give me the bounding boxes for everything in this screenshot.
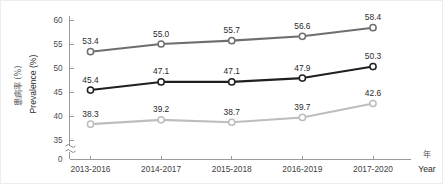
data-point-marker (370, 63, 376, 69)
x-tick-label: 2013-2016 (70, 164, 110, 174)
data-point-label: 38.3 (82, 109, 99, 119)
x-tick-label: 2016-2019 (282, 164, 322, 174)
x-axis-title-cjk: 年 (423, 149, 431, 159)
y-axis-title: Prevalence (%) (28, 54, 38, 113)
data-point-marker (299, 114, 305, 120)
data-point-label: 47.9 (294, 63, 311, 73)
data-point-label: 47.1 (153, 66, 170, 76)
y-tick-label: 40 (53, 112, 63, 121)
data-point-label: 47.1 (224, 66, 241, 76)
prevalence-line-chart: 35404550556002013-20162014-20172015-2018… (0, 0, 443, 184)
data-point-marker (229, 79, 235, 85)
data-point-label: 50.3 (365, 51, 382, 61)
data-point-marker (370, 25, 376, 31)
data-point-label: 38.7 (224, 107, 241, 117)
data-point-marker (229, 119, 235, 125)
data-point-marker (299, 33, 305, 39)
data-point-label: 42.6 (365, 88, 382, 98)
y-axis-zero-label: 0 (58, 155, 63, 164)
data-point-label: 55.7 (224, 25, 241, 35)
y-axis-title-cjk: 患病率 (%) (13, 66, 23, 107)
data-point-marker (299, 75, 305, 81)
data-point-label: 45.4 (82, 75, 99, 85)
axis-break-lower-icon (66, 150, 76, 153)
data-point-marker (158, 117, 164, 123)
data-point-marker (87, 49, 93, 55)
data-point-label: 55.0 (153, 29, 170, 39)
data-point-marker (229, 38, 235, 44)
data-point-marker (87, 87, 93, 93)
x-tick-label: 2014-2017 (141, 164, 181, 174)
y-tick-label: 50 (53, 64, 63, 73)
y-tick-label: 45 (53, 88, 63, 97)
y-tick-label: 60 (53, 16, 63, 25)
data-point-marker (158, 41, 164, 47)
data-point-label: 39.2 (153, 104, 170, 114)
data-point-label: 53.4 (82, 36, 99, 46)
data-point-marker (370, 100, 376, 106)
data-point-label: 39.7 (294, 102, 311, 112)
chart-canvas: 35404550556002013-20162014-20172015-2018… (1, 1, 443, 184)
axis-break-upper-icon (66, 145, 76, 148)
x-tick-label: 2017-2020 (353, 164, 393, 174)
data-point-label: 56.6 (294, 21, 311, 31)
x-axis-title: Year (418, 164, 436, 174)
data-point-marker (87, 121, 93, 127)
y-tick-label: 35 (53, 136, 63, 145)
data-point-label: 58.4 (365, 12, 382, 22)
x-tick-label: 2015-2018 (212, 164, 252, 174)
data-point-marker (158, 79, 164, 85)
y-tick-label: 55 (53, 40, 63, 49)
